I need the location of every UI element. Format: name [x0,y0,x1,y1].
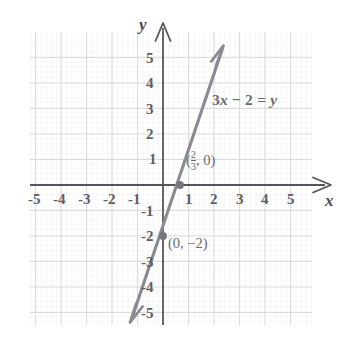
y-intercept-label: (0, −2) [168,236,208,251]
x-tick--3: -3 [78,192,91,207]
x-axis-label: x [325,192,334,209]
equation-equals-sign: = [257,91,266,108]
y-tick-5: 5 [146,51,154,66]
x-intercept-fraction: 23 [191,149,196,172]
x-tick-5: 5 [287,192,295,207]
x-tick-4: 4 [261,192,269,207]
minor-grid [30,32,312,325]
equation-variable-y: y [270,91,277,108]
y-tick--4: -4 [141,280,154,295]
x-tick--2: -2 [103,192,116,207]
y-intercept-point [159,232,167,240]
equation-constant: 2 [245,91,253,108]
coordinate-plane-svg [0,0,346,341]
x-tick-3: 3 [236,192,244,207]
y-tick--1: -1 [141,204,154,219]
x-tick--5: -5 [28,192,41,207]
equation-coefficient: 3 [212,91,220,108]
x-intercept-denominator: 3 [191,160,196,172]
x-tick--4: -4 [53,192,66,207]
y-tick--3: -3 [141,255,154,270]
equation-variable-x: x [220,91,228,108]
y-tick-2: 2 [146,127,154,142]
y-tick--5: -5 [141,306,154,321]
equation-minus-sign: − [232,91,241,108]
x-tick-1: 1 [185,192,193,207]
x-intercept-close-paren: ) [211,152,216,168]
x-tick--1: -1 [128,192,141,207]
x-intercept-y-value: 0 [203,152,210,168]
x-tick-2: 2 [210,192,218,207]
x-intercept-label: (23, 0) [186,150,215,173]
y-axis-label: y [139,16,147,33]
y-tick-3: 3 [146,102,154,117]
y-tick-1: 1 [149,152,157,167]
y-tick-4: 4 [146,76,154,91]
x-intercept-numerator: 2 [191,149,196,160]
y-tick--2: -2 [141,229,154,244]
equation-label: 3x − 2 = y [212,92,277,108]
x-intercept-point [176,181,184,189]
graph-figure: y x -5 -4 -3 -2 -1 1 2 3 4 5 5 4 3 2 1 -… [0,0,346,341]
